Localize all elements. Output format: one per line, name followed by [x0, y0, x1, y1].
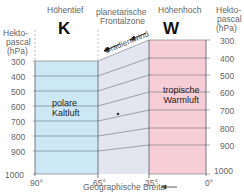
left-tick-400: 400	[11, 72, 25, 82]
warm-air-region	[149, 40, 206, 174]
cold-air-label-line2: Kaltluft	[52, 108, 80, 118]
left-tick-600: 600	[11, 102, 25, 112]
left-tick-300: 300	[11, 57, 25, 67]
cold-symbol-k: K	[58, 19, 70, 39]
x-axis-label: Geographische Breite	[83, 183, 165, 192]
right-tick-1000: 1000	[214, 166, 233, 176]
marker-dot	[117, 113, 120, 116]
right-tick-700: 700	[220, 106, 234, 116]
right-tick-900: 900	[220, 141, 234, 151]
right-tick-500: 500	[220, 71, 234, 81]
left-tick-800: 800	[11, 132, 25, 142]
right-unit-line3: (hPa)	[216, 24, 237, 33]
cold-air-label-line1: polare	[52, 98, 80, 108]
frontal-zone-title-line2: Frontalzone	[100, 17, 145, 26]
height-low-title: Höhentief	[47, 6, 83, 15]
right-tick-800: 800	[220, 124, 234, 134]
right-tick-600: 600	[220, 88, 234, 98]
warm-air-label-line2: Warmluft	[163, 95, 200, 105]
left-tick-900: 900	[11, 147, 25, 157]
left-tick-1000: 1000	[5, 170, 24, 180]
left-tick-700: 700	[11, 117, 25, 127]
right-tick-300: 300	[220, 36, 234, 46]
cold-air-label: polare Kaltluft	[52, 98, 80, 118]
diagram-canvas	[0, 0, 244, 193]
height-high-title: Höhenhoch	[158, 6, 201, 15]
lat-tick-0: 0°	[205, 178, 213, 188]
left-unit-line3: (hPa)	[7, 47, 28, 56]
left-tick-500: 500	[11, 87, 25, 97]
frontal-zone-region	[98, 40, 149, 174]
warm-air-label: tropische Warmluft	[163, 85, 200, 105]
warm-symbol-w: W	[163, 19, 179, 39]
lat-tick-90: 90°	[30, 178, 43, 188]
warm-air-label-line1: tropische	[163, 85, 200, 95]
right-tick-400: 400	[220, 54, 234, 64]
